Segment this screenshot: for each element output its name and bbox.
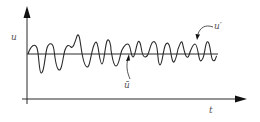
mean-label: ū [124,81,130,90]
fluctuation-pointer [198,26,213,34]
diagram-canvas [0,0,260,122]
x-axis-arrow-icon [235,96,247,103]
mean-pointer [127,58,130,79]
mean-pointer-arrow-icon [126,54,130,61]
x-axis-label: t [209,106,213,115]
fluctuation-label: u′ [214,22,222,31]
fluctuation-pointer-arrow-icon [196,34,201,40]
y-axis-arrow-icon [24,6,31,18]
y-axis-label: u [11,33,17,42]
